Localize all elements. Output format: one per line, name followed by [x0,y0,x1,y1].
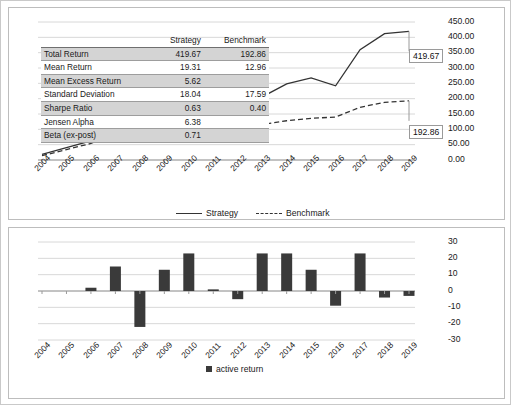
row-label: Beta (ex-post) [41,129,154,143]
legend-marker-solid [176,213,202,214]
y-axis-tick-label: 350.00 [448,46,474,56]
bar [85,288,96,291]
row-benchmark-value [204,129,269,143]
chart-page: Strategy Benchmark Total Return419.67192… [0,0,511,405]
row-label: Standard Deviation [41,88,154,102]
row-strategy-value: 18.04 [154,88,204,102]
row-benchmark-value [204,115,269,129]
bar [183,253,194,291]
table-row: Beta (ex-post)0.71 [41,129,269,143]
legend-marker-square [206,366,212,372]
y-axis-tick-label: 50.00 [448,138,470,148]
bar [134,291,145,327]
table-header-row: Strategy Benchmark [41,34,269,47]
y-axis-tick-label: 250.00 [448,77,474,87]
benchmark-end-callout: 192.86 [409,125,443,139]
header-blank [41,34,154,47]
table-row: Sharpe Ratio0.630.40 [41,101,269,115]
row-benchmark-value: 17.59 [204,88,269,102]
bar [257,253,268,291]
table-row: Standard Deviation18.0417.59 [41,88,269,102]
legend-label: Strategy [206,208,238,218]
y-axis-tick-label: 0 [448,285,453,295]
bar [110,267,121,292]
header-benchmark: Benchmark [204,34,269,47]
y-axis-tick-label: 300.00 [448,62,474,72]
y-axis-tick-label: 200.00 [448,92,474,102]
row-strategy-value: 0.71 [154,129,204,143]
row-label: Total Return [41,47,154,61]
y-axis-tick-label: -20 [448,317,460,327]
y-axis-tick-label: -10 [448,301,460,311]
y-axis-tick-label: 100.00 [448,123,474,133]
header-strategy: Strategy [154,34,204,47]
y-axis-tick-label: 450.00 [448,16,474,26]
row-strategy-value: 0.63 [154,101,204,115]
y-axis-tick-label: 0.00 [448,154,465,164]
row-strategy-value: 6.38 [154,115,204,129]
row-benchmark-value: 192.86 [204,47,269,61]
bar [355,253,366,291]
bottom-chart-legend: active return [206,364,263,374]
statistics-table: Strategy Benchmark Total Return419.67192… [41,34,269,143]
y-axis-tick-label: 10 [448,268,458,278]
bar [281,253,292,291]
row-benchmark-value [204,74,269,88]
legend-marker-dashed [256,213,282,214]
row-label: Jensen Alpha [41,115,154,129]
row-label: Sharpe Ratio [41,101,154,115]
table-row: Total Return419.67192.86 [41,47,269,61]
y-axis-tick-label: 400.00 [448,31,474,41]
row-benchmark-value: 12.96 [204,61,269,75]
table-row: Mean Excess Return5.62 [41,74,269,88]
statistics-table-header: Strategy Benchmark [41,34,269,47]
legend-item: Benchmark [256,208,329,218]
row-strategy-value: 419.67 [154,47,204,61]
bar [306,270,317,291]
legend-label: Benchmark [286,208,329,218]
y-axis-tick-label: 20 [448,252,458,262]
legend-item: Strategy [176,208,238,218]
y-axis-tick-label: -30 [448,334,460,344]
top-chart-legend: StrategyBenchmark [176,208,329,218]
statistics-table-body: Total Return419.67192.86Mean Return19.31… [41,47,269,142]
row-strategy-value: 19.31 [154,61,204,75]
row-label: Mean Return [41,61,154,75]
bar [208,289,219,291]
row-strategy-value: 5.62 [154,74,204,88]
bar [159,270,170,291]
y-axis-tick-label: 30 [448,236,458,246]
legend-item: active return [206,364,263,374]
table-row: Jensen Alpha6.38 [41,115,269,129]
row-benchmark-value: 0.40 [204,101,269,115]
row-label: Mean Excess Return [41,74,154,88]
legend-label: active return [216,364,263,374]
y-axis-tick-label: 150.00 [448,108,474,118]
table-row: Mean Return19.3112.96 [41,61,269,75]
strategy-end-callout: 419.67 [409,49,443,63]
